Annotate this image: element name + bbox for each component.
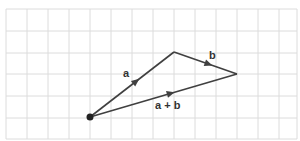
origin-point	[87, 114, 94, 121]
label-a-plus-b: a + b	[155, 99, 181, 111]
vector-addition-diagram: a b a + b	[0, 0, 300, 141]
grid	[6, 9, 297, 139]
vector-b	[174, 52, 237, 74]
label-b: b	[209, 49, 216, 61]
arrowhead-icon	[166, 91, 175, 98]
label-a: a	[123, 67, 130, 79]
